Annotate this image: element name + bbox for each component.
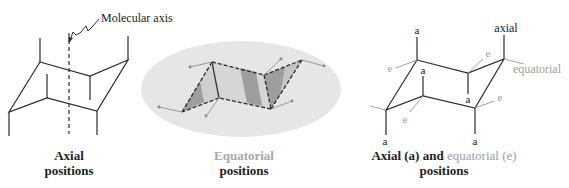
equatorial-caption-line2: positions (219, 163, 268, 178)
equatorial-label-e: e (498, 91, 503, 103)
combined-caption-line1: Axial (a) and equatorial (e) (371, 148, 516, 163)
substituent-dot (323, 65, 326, 68)
axial-label-a: a (466, 93, 471, 105)
substituent-dot (291, 100, 294, 103)
caption-gray-part: equatorial (e) (447, 148, 517, 163)
combined-caption-line2: positions (419, 163, 468, 178)
axial-panel (9, 19, 128, 136)
cyclohexane-axial-equatorial-figure: Molecular axis Axial positions (0, 0, 569, 188)
axial-caption-line2: positions (44, 163, 93, 178)
substituent-dot (280, 58, 283, 61)
axial-label-a: a (383, 135, 388, 147)
axial-label-a: a (415, 24, 420, 36)
axial-caption-line1: Axial (54, 148, 84, 163)
equatorial-bond (468, 59, 483, 73)
equatorial-panel (141, 41, 341, 137)
equatorial-bonds (370, 59, 524, 112)
equatorial-bond (370, 106, 386, 110)
figure-canvas: Molecular axis Axial positions (0, 0, 569, 188)
combined-panel: a a a a a axial e e e e equatorial (370, 21, 562, 147)
substituent-dot (189, 66, 192, 69)
equatorial-label-e: e (388, 62, 393, 74)
axial-label-a: a (473, 135, 478, 147)
caption-bold-part: Axial (a) and (371, 148, 444, 163)
equatorial-label-e: e (403, 113, 408, 125)
equatorial-label-e: e (486, 47, 491, 59)
equatorial-caption-line1: Equatorial (214, 148, 274, 163)
axial-label: axial (494, 21, 518, 35)
callout-arrow-icon (70, 19, 99, 40)
molecular-axis-label: Molecular axis (101, 11, 173, 25)
chair-ring (386, 59, 504, 110)
substituent-dot (205, 115, 208, 118)
equatorial-label: equatorial (513, 62, 562, 76)
substituent-dot (158, 106, 161, 109)
axial-label-a: a (421, 64, 426, 76)
